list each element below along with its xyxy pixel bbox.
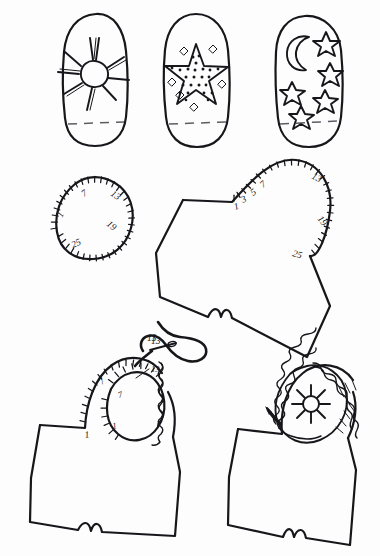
illustration-page: 1 7 13 19 25 — [0, 0, 380, 556]
illustration-canvas: 1 7 13 19 25 — [0, 0, 380, 556]
needle-label-13: 13 — [147, 333, 157, 343]
